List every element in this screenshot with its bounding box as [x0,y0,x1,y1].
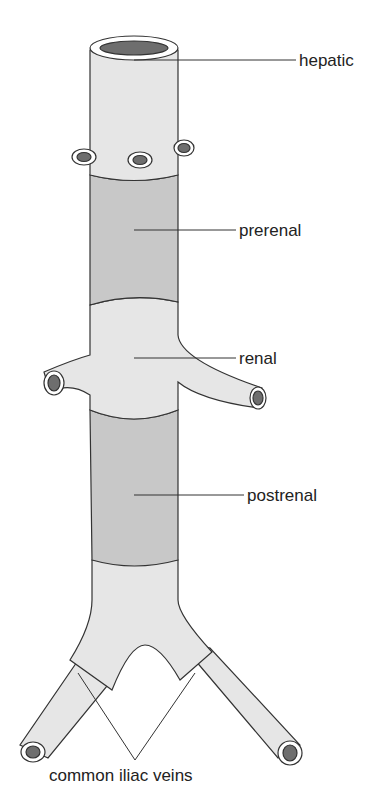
vena-cava-diagram [0,0,366,802]
label-renal: renal [239,350,277,367]
label-hepatic: hepatic [299,52,354,69]
top-lumen [100,41,168,55]
prerenal-segment [90,175,178,305]
postrenal-segment [90,410,178,566]
iliac-bifurcation [70,560,212,690]
label-prerenal: prerenal [239,222,301,239]
label-common-iliac-veins: common iliac veins [49,767,193,784]
label-postrenal: postrenal [247,487,317,504]
